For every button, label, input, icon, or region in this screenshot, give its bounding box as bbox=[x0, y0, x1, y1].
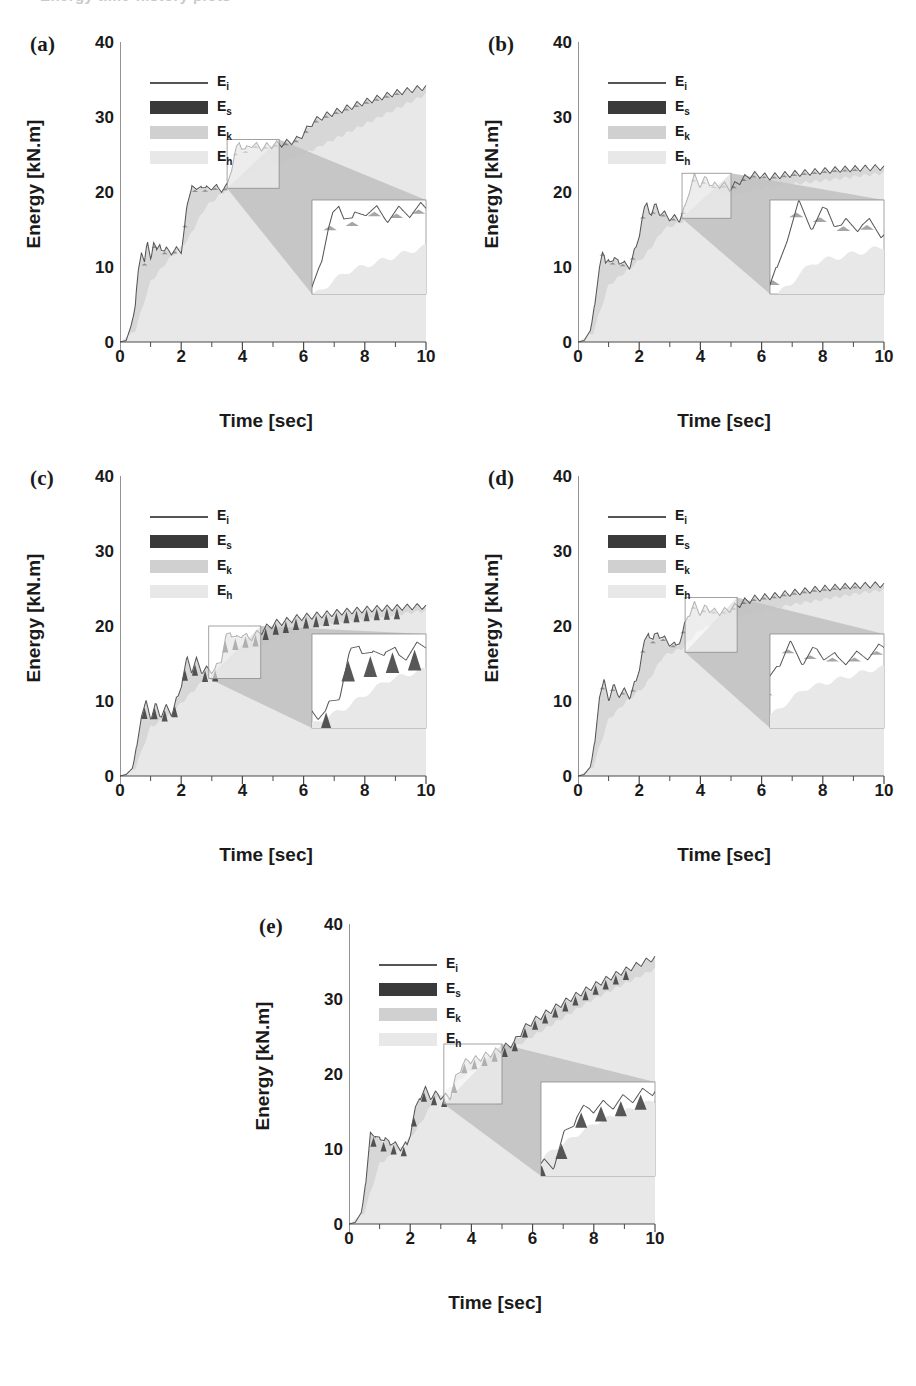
y-tick-label: 20 bbox=[74, 618, 114, 635]
legend-label: Ei bbox=[217, 507, 229, 526]
legend-swatch-eh-icon bbox=[150, 585, 208, 598]
legend-label: Eh bbox=[217, 148, 232, 167]
legend-label: Eh bbox=[675, 582, 690, 601]
legend-swatch-es-icon bbox=[608, 101, 666, 114]
legend-item-eh: Eh bbox=[150, 579, 232, 604]
panel-b: (b)Energy [kN.m]Time [sec]01020304002468… bbox=[458, 18, 916, 458]
y-tick-label: 20 bbox=[74, 184, 114, 201]
y-tick-label: 10 bbox=[74, 693, 114, 710]
legend-swatch-ek-icon bbox=[379, 1008, 437, 1021]
legend-swatch-ek-icon bbox=[150, 560, 208, 573]
legend-item-es: Es bbox=[608, 529, 690, 554]
inset-source-box bbox=[444, 1044, 502, 1104]
legend-swatch-ei-icon bbox=[150, 510, 208, 523]
y-tick-label: 30 bbox=[74, 109, 114, 126]
legend-item-ek: Ek bbox=[150, 120, 232, 145]
panel-c: (c)Energy [kN.m]Time [sec]01020304002468… bbox=[0, 452, 458, 892]
legend-swatch-ei-icon bbox=[608, 76, 666, 89]
y-tick-label: 40 bbox=[532, 468, 572, 485]
y-tick-label: 20 bbox=[532, 618, 572, 635]
legend-label: Ek bbox=[446, 1005, 461, 1024]
legend-label: Es bbox=[675, 532, 690, 551]
legend-swatch-eh-icon bbox=[608, 151, 666, 164]
legend-item-eh: Eh bbox=[379, 1027, 461, 1052]
cut-off-caption-text: Energy time-history plots bbox=[40, 0, 231, 4]
legend-label: Ei bbox=[675, 507, 687, 526]
legend-swatch-ei-icon bbox=[150, 76, 208, 89]
legend-item-eh: Eh bbox=[150, 145, 232, 170]
legend: EiEsEkEh bbox=[608, 504, 690, 604]
legend-item-eh: Eh bbox=[608, 579, 690, 604]
legend-item-ek: Ek bbox=[150, 554, 232, 579]
legend-item-es: Es bbox=[150, 529, 232, 554]
legend-item-es: Es bbox=[608, 95, 690, 120]
legend-swatch-es-icon bbox=[150, 535, 208, 548]
legend-swatch-ei-icon bbox=[379, 958, 437, 971]
y-tick-label: 40 bbox=[303, 916, 343, 933]
y-tick-label: 40 bbox=[74, 468, 114, 485]
y-axis-ticks: 010203040 bbox=[70, 476, 114, 776]
legend-swatch-es-icon bbox=[379, 983, 437, 996]
legend-label: Eh bbox=[675, 148, 690, 167]
y-tick-label: 40 bbox=[532, 34, 572, 51]
legend-label: Ek bbox=[217, 557, 232, 576]
legend-swatch-ek-icon bbox=[608, 126, 666, 139]
inset-source-box bbox=[682, 173, 731, 218]
y-axis-label: Energy [kN.m] bbox=[23, 478, 45, 758]
legend-label: Es bbox=[217, 98, 232, 117]
legend-swatch-ek-icon bbox=[608, 560, 666, 573]
legend-item-ei: Ei bbox=[608, 70, 690, 95]
legend-swatch-es-icon bbox=[608, 535, 666, 548]
y-tick-label: 40 bbox=[74, 34, 114, 51]
y-tick-label: 10 bbox=[303, 1141, 343, 1158]
y-axis-label: Energy [kN.m] bbox=[481, 44, 503, 324]
legend-swatch-eh-icon bbox=[608, 585, 666, 598]
y-tick-label: 20 bbox=[532, 184, 572, 201]
y-tick-label: 10 bbox=[532, 693, 572, 710]
y-tick-label: 30 bbox=[74, 543, 114, 560]
inset-source-box bbox=[209, 626, 261, 679]
x-axis-label: Time [sec] bbox=[554, 410, 894, 432]
legend-label: Ei bbox=[675, 73, 687, 92]
x-axis-label: Time [sec] bbox=[325, 1292, 665, 1314]
legend-item-eh: Eh bbox=[608, 145, 690, 170]
cut-off-caption: Energy time-history plots bbox=[0, 0, 916, 14]
y-axis-label: Energy [kN.m] bbox=[252, 926, 274, 1206]
legend-label: Ei bbox=[446, 955, 458, 974]
legend-item-ei: Ei bbox=[150, 70, 232, 95]
x-axis-label: Time [sec] bbox=[96, 410, 436, 432]
legend-item-ek: Ek bbox=[379, 1002, 461, 1027]
y-axis-ticks: 010203040 bbox=[528, 476, 572, 776]
legend-swatch-ei-icon bbox=[608, 510, 666, 523]
legend-label: Ek bbox=[675, 557, 690, 576]
legend-label: Eh bbox=[446, 1030, 461, 1049]
legend-label: Es bbox=[446, 980, 461, 999]
panel-a: (a)Energy [kN.m]Time [sec]01020304002468… bbox=[0, 18, 458, 458]
legend-item-ek: Ek bbox=[608, 554, 690, 579]
legend-label: Es bbox=[675, 98, 690, 117]
legend-item-ei: Ei bbox=[608, 504, 690, 529]
y-axis-ticks: 010203040 bbox=[299, 924, 343, 1224]
y-tick-label: 10 bbox=[74, 259, 114, 276]
y-axis-label: Energy [kN.m] bbox=[23, 44, 45, 324]
legend: EiEsEkEh bbox=[150, 504, 232, 604]
y-tick-label: 30 bbox=[532, 109, 572, 126]
legend-label: Ek bbox=[217, 123, 232, 142]
y-tick-label: 10 bbox=[532, 259, 572, 276]
y-tick-label: 30 bbox=[532, 543, 572, 560]
panel-d: (d)Energy [kN.m]Time [sec]01020304002468… bbox=[458, 452, 916, 892]
legend: EiEsEkEh bbox=[379, 952, 461, 1052]
y-tick-label: 20 bbox=[303, 1066, 343, 1083]
legend-item-ei: Ei bbox=[150, 504, 232, 529]
legend-label: Es bbox=[217, 532, 232, 551]
legend-swatch-eh-icon bbox=[379, 1033, 437, 1046]
legend: EiEsEkEh bbox=[608, 70, 690, 170]
y-axis-ticks: 010203040 bbox=[528, 42, 572, 342]
legend-label: Ei bbox=[217, 73, 229, 92]
y-axis-label: Energy [kN.m] bbox=[481, 478, 503, 758]
y-tick-label: 30 bbox=[303, 991, 343, 1008]
legend-swatch-es-icon bbox=[150, 101, 208, 114]
legend: EiEsEkEh bbox=[150, 70, 232, 170]
inset-source-box bbox=[227, 140, 279, 189]
legend-item-es: Es bbox=[379, 977, 461, 1002]
